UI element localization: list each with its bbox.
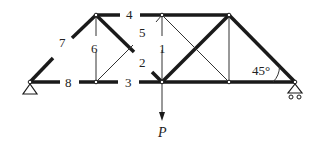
member-7-lower [30,58,53,82]
pin-support-icon [23,84,37,94]
roller-support-icon [288,84,302,99]
angle-arc [273,67,280,83]
member-label-6: 6 [91,42,98,55]
member-label-8: 8 [65,76,72,89]
node-g [160,13,164,17]
member-label-2: 2 [139,56,146,69]
member-label-5: 5 [139,26,146,39]
load-label: P [158,126,167,140]
node-d [227,80,231,84]
angle-label: 45° [252,64,270,77]
node-h [227,13,231,17]
member-label-4: 4 [126,8,133,21]
member-label-1: 1 [159,42,166,55]
node-f [94,13,98,17]
load-arrow-head [159,112,165,121]
member-label-3: 3 [125,76,132,89]
node-c [160,80,164,84]
member-7-upper [72,15,96,38]
node-b [94,80,98,84]
member-label-7: 7 [59,36,66,49]
